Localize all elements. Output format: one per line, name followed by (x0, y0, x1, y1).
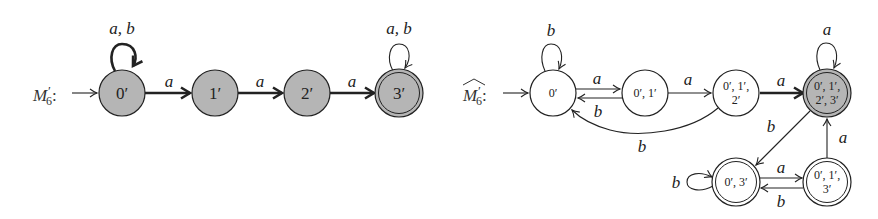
svg-text:2′, 3′: 2′, 3′ (815, 93, 839, 107)
svg-text:0′, 1′,: 0′, 1′, (814, 79, 840, 93)
right-machine-label: M′6: (462, 83, 487, 108)
svg-text:0′, 1′: 0′, 1′ (633, 86, 657, 100)
transition-label: a (348, 72, 357, 91)
svg-text:0′: 0′ (116, 84, 128, 103)
state-1: 1′ (192, 70, 238, 116)
transition-label: b (672, 173, 681, 192)
transition-label: b (767, 117, 776, 136)
state-q5-accepting: 0′, 1′, 3′ (803, 158, 851, 206)
transition-label: b (594, 102, 603, 121)
transition-loop-0-left (111, 44, 135, 71)
transition-loop-q3 (817, 43, 837, 70)
svg-text:1′: 1′ (209, 84, 221, 103)
state-q1: 0′, 1′ (622, 70, 668, 116)
transition-label: a (839, 128, 848, 147)
transition-label: a (777, 158, 786, 177)
left-machine-label: M′6: (32, 83, 57, 108)
transition-loop-3-left (389, 44, 409, 71)
state-q3-accepting: 0′, 1′, 2′, 3′ (803, 69, 851, 117)
state-3-accepting: 3′ (375, 69, 423, 117)
transition-label: a (823, 20, 832, 39)
transition-label: b (777, 192, 786, 211)
svg-text:0′, 1′,: 0′, 1′, (723, 79, 749, 93)
transition-label: a (256, 72, 265, 91)
hat-accent (463, 79, 485, 85)
automata-diagram: M′6: a, b a a a a, b 0′ 1′ 2′ (0, 0, 878, 219)
svg-text:3′: 3′ (393, 84, 405, 103)
right-machine: M′6: b a b a b a a b b a (462, 20, 851, 211)
transition-label: b (638, 137, 647, 156)
transition-label: a, b (386, 19, 412, 38)
left-machine: M′6: a, b a a a a, b 0′ 1′ 2′ (32, 19, 423, 117)
transition-label: a (684, 70, 693, 89)
state-q0: 0′ (530, 70, 576, 116)
svg-text:0′, 1′,: 0′, 1′, (814, 168, 840, 182)
transition-label: a, b (109, 19, 135, 38)
svg-text:3′: 3′ (823, 182, 832, 196)
transition-loop-q0 (542, 44, 562, 71)
transition-label: a (777, 71, 786, 90)
svg-text:0′: 0′ (549, 86, 558, 100)
transition-label: b (547, 21, 556, 40)
transition-q3-q4 (756, 111, 810, 165)
state-q2: 0′, 1′, 2′ (713, 70, 759, 116)
svg-text:0′, 3′: 0′, 3′ (724, 175, 748, 189)
svg-text:2′: 2′ (301, 84, 313, 103)
transition-label: a (165, 72, 174, 91)
svg-text:2′: 2′ (732, 93, 741, 107)
state-q4-accepting: 0′, 3′ (712, 158, 760, 206)
transition-label: a (593, 69, 602, 88)
state-2: 2′ (284, 70, 330, 116)
transition-loop-q4 (687, 174, 713, 190)
state-0: 0′ (99, 70, 145, 116)
